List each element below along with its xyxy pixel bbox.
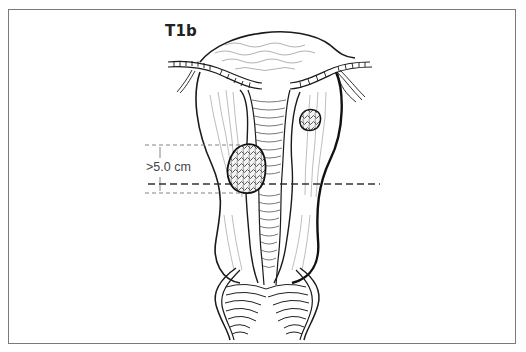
- uterus-diagram: [0, 0, 526, 352]
- vagina: [215, 268, 319, 340]
- measurement-label: >5.0 cm: [146, 160, 191, 174]
- uterine-fundus: [200, 32, 355, 71]
- fallopian-tube-left: [168, 61, 262, 89]
- uterine-wall-right: [274, 72, 342, 283]
- ligament-left: [177, 70, 195, 93]
- uterine-lesion: [300, 110, 321, 131]
- fallopian-tube-right: [290, 62, 372, 89]
- cervical-tumor: [228, 144, 266, 193]
